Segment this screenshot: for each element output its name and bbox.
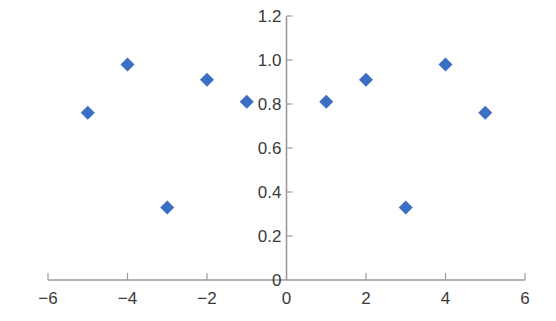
y-tick-label: 1.0 [258,51,282,70]
data-point-diamond [240,95,254,109]
y-tick-label: 0.6 [258,139,282,158]
x-tick-label: −4 [118,289,137,308]
y-tick-label: 0.4 [258,183,282,202]
x-tick-label: 2 [361,289,370,308]
y-axis-ticks: 00.20.40.60.81.01.2 [258,7,293,290]
x-tick-label: −6 [38,289,57,308]
data-point-diamond [359,73,373,87]
data-point-diamond [160,200,174,214]
data-point-diamond [399,200,413,214]
data-point-diamond [319,95,333,109]
x-tick-label: −2 [197,289,216,308]
scatter-chart: 00.20.40.60.81.01.2 −6−4−20246 [0,0,556,321]
x-tick-label: 0 [282,289,291,308]
y-tick-label: 0.2 [258,227,282,246]
y-tick-label: 0 [272,271,281,290]
data-point-diamond [121,57,135,71]
y-tick-label: 1.2 [258,7,282,26]
x-axis-ticks: −6−4−20246 [38,273,529,308]
data-point-diamond [439,57,453,71]
y-tick-label: 0.8 [258,95,282,114]
data-point-diamond [200,73,214,87]
data-point-diamond [478,106,492,120]
data-point-diamond [81,106,95,120]
x-tick-label: 4 [441,289,450,308]
x-tick-label: 6 [520,289,529,308]
